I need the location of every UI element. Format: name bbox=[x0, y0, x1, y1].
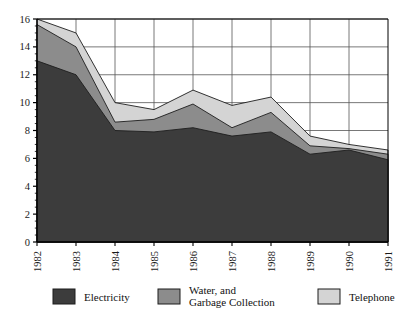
y-tick-label: 6 bbox=[25, 153, 30, 164]
y-tick-label: 0 bbox=[25, 237, 30, 248]
x-tick-label: 1990 bbox=[344, 251, 355, 272]
y-tick-label: 8 bbox=[25, 125, 30, 136]
legend-label-water-and-line2: Garbage Collection bbox=[189, 296, 275, 308]
x-tick-label: 1987 bbox=[227, 251, 238, 272]
x-tick-label: 1985 bbox=[149, 251, 160, 272]
legend-label-telephone: Telephone bbox=[349, 291, 395, 303]
stacked-area-chart: 0246810121416 19821983198419851986198719… bbox=[0, 0, 418, 322]
chart-canvas: 0246810121416 19821983198419851986198719… bbox=[0, 0, 418, 322]
y-tick-label: 14 bbox=[20, 41, 31, 52]
x-tick-label: 1988 bbox=[266, 251, 277, 272]
legend-swatch-electricity bbox=[53, 289, 75, 304]
x-tick-label: 1986 bbox=[188, 251, 199, 272]
x-tick-label: 1983 bbox=[71, 251, 82, 272]
x-tick-label: 1982 bbox=[32, 251, 43, 272]
y-tick-label: 4 bbox=[25, 181, 31, 192]
legend-label-electricity: Electricity bbox=[84, 291, 130, 303]
x-tick-label: 1984 bbox=[110, 250, 121, 272]
y-tick-label: 16 bbox=[20, 14, 31, 25]
x-tick-label: 1991 bbox=[383, 251, 394, 272]
legend-swatch-water-and bbox=[158, 289, 180, 304]
legend-label-water-and-line1: Water, and bbox=[189, 284, 236, 296]
y-tick-label: 2 bbox=[25, 209, 30, 220]
y-tick-label: 12 bbox=[20, 69, 31, 80]
legend-swatch-telephone bbox=[318, 289, 340, 304]
y-tick-label: 10 bbox=[20, 97, 31, 108]
x-tick-label: 1989 bbox=[305, 251, 316, 272]
